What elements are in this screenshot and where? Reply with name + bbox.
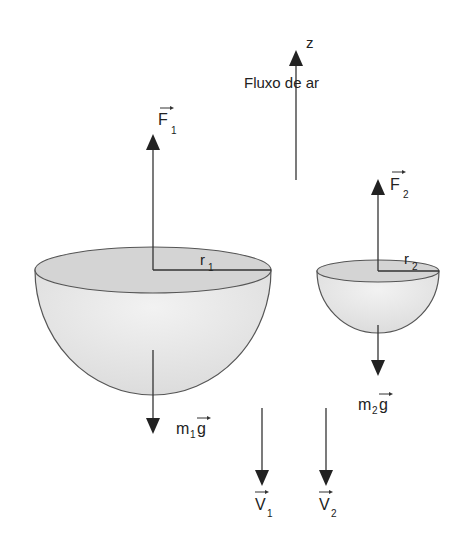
arrow-up-icon <box>371 179 385 195</box>
arrow-up-icon <box>146 134 160 150</box>
arrow-down-icon <box>255 470 269 486</box>
air-flow-axis: z Fluxo de ar <box>244 34 319 180</box>
velocity-1: V 1 <box>255 408 273 519</box>
hemisphere-1: r 1 F 1 m 1 g <box>35 106 271 440</box>
air-flow-caption: Fluxo de ar <box>244 74 319 91</box>
svg-text:2: 2 <box>403 189 409 200</box>
force-2-label: F <box>390 176 400 193</box>
diagram-canvas: z Fluxo de ar r 1 F 1 m 1 g r 2 <box>0 0 466 539</box>
svg-text:1: 1 <box>267 508 273 519</box>
arrow-down-icon <box>371 360 385 376</box>
svg-text:1: 1 <box>208 262 214 273</box>
arrow-down-icon <box>146 418 160 434</box>
weight-1-m: m <box>176 420 189 437</box>
arrow-up-icon <box>289 50 303 66</box>
radius-2-label: r <box>404 250 409 267</box>
svg-text:2: 2 <box>331 508 337 519</box>
force-1-label: F <box>158 111 168 128</box>
hemisphere-2: r 2 F 2 m 2 g <box>317 170 439 416</box>
svg-text:1: 1 <box>171 125 177 136</box>
axis-z-label: z <box>306 34 314 51</box>
svg-text:2: 2 <box>412 261 418 272</box>
weight-2-g: g <box>379 396 388 413</box>
weight-1-g: g <box>197 420 206 437</box>
velocity-2-label: V <box>319 496 330 513</box>
arrow-down-icon <box>319 470 333 486</box>
weight-2-m: m <box>358 396 371 413</box>
velocity-1-label: V <box>255 496 266 513</box>
svg-text:1: 1 <box>190 429 196 440</box>
velocity-2: V 2 <box>319 408 337 519</box>
svg-text:2: 2 <box>372 405 378 416</box>
radius-1-label: r <box>200 251 205 268</box>
